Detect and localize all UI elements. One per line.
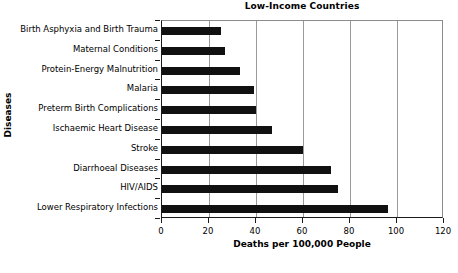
category-label: HIV/AIDS [3, 183, 158, 192]
y-axis-tick [155, 198, 160, 199]
category-label: Stroke [3, 144, 158, 153]
plot-area [161, 20, 443, 218]
category-label: Birth Asphyxia and Birth Trauma [3, 25, 158, 34]
x-axis-tick [349, 218, 350, 223]
y-axis-tick [155, 99, 160, 100]
bar [162, 47, 225, 55]
category-axis-labels: Birth Asphyxia and Birth TraumaMaternal … [0, 20, 158, 218]
category-label: Malaria [3, 84, 158, 93]
category-label: Lower Respiratory Infections [3, 203, 158, 212]
bar [162, 166, 331, 174]
y-axis-tick [155, 79, 160, 80]
category-label: Preterm Birth Complications [3, 104, 158, 113]
y-axis-tick [155, 218, 160, 219]
category-label: Ischaemic Heart Disease [3, 124, 158, 133]
bar-chart: Low-Income Countries Diseases Birth Asph… [0, 0, 458, 273]
x-axis-tick [396, 218, 397, 223]
chart-title: Low-Income Countries [161, 1, 443, 11]
bar [162, 67, 240, 75]
bar [162, 126, 272, 134]
bar [162, 146, 303, 154]
x-axis-tick-label: 120 [423, 226, 458, 236]
category-label: Protein-Energy Malnutrition [3, 65, 158, 74]
x-axis-tick-label: 0 [141, 226, 181, 236]
y-axis-tick [155, 178, 160, 179]
x-axis-tick-label: 60 [282, 226, 322, 236]
bars [162, 21, 442, 217]
x-axis-tick [161, 218, 162, 223]
x-axis-tick [443, 218, 444, 223]
x-axis-tick [302, 218, 303, 223]
bar [162, 106, 256, 114]
y-axis-tick [155, 159, 160, 160]
y-axis-tick [155, 119, 160, 120]
y-axis-tick [155, 20, 160, 21]
x-axis-tick [255, 218, 256, 223]
x-axis-tick-label: 100 [376, 226, 416, 236]
bar [162, 86, 254, 94]
y-axis-tick [155, 139, 160, 140]
x-axis-title: Deaths per 100,000 People [161, 239, 443, 249]
category-label: Maternal Conditions [3, 45, 158, 54]
x-axis-tick-label: 80 [329, 226, 369, 236]
bar [162, 205, 388, 213]
x-axis-tick-label: 20 [188, 226, 228, 236]
x-axis-tick-label: 40 [235, 226, 275, 236]
x-axis-tick [208, 218, 209, 223]
category-label: Diarrhoeal Diseases [3, 164, 158, 173]
bar [162, 27, 221, 35]
y-axis-tick [155, 40, 160, 41]
bar [162, 185, 338, 193]
y-axis-tick [155, 60, 160, 61]
